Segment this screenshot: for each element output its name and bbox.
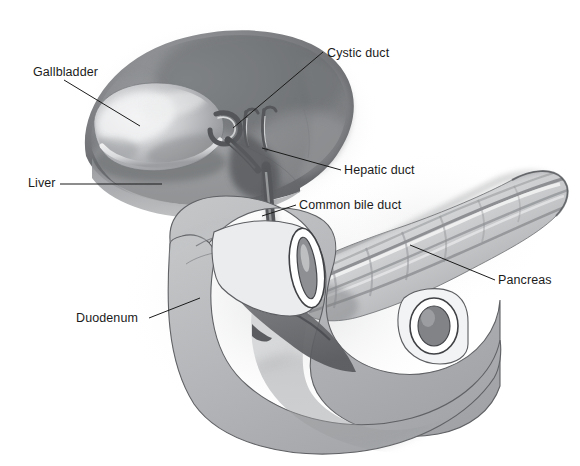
label-cystic-duct: Cystic duct xyxy=(327,47,389,60)
label-common-bile-duct: Common bile duct xyxy=(299,199,401,212)
label-duodenum: Duodenum xyxy=(76,312,138,325)
anatomical-figure: Gallbladder Liver Duodenum Cystic duct H… xyxy=(0,0,580,466)
duodenum-lumen-lower-highlight xyxy=(421,309,435,327)
label-hepatic-duct: Hepatic duct xyxy=(344,164,415,177)
label-liver: Liver xyxy=(28,177,56,190)
label-gallbladder: Gallbladder xyxy=(33,66,98,79)
label-pancreas: Pancreas xyxy=(498,274,552,287)
